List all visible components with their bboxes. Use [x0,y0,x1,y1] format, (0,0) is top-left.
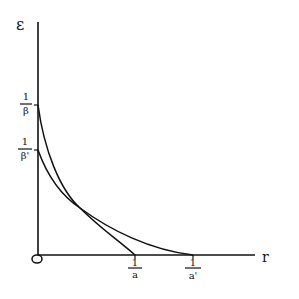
svg-text:1: 1 [190,257,196,268]
svg-text:β: β [23,105,29,116]
x-axis-label: r [262,249,269,265]
x-label-1-over-a-prime: 1 a' [185,257,201,281]
svg-text:a': a' [189,270,198,281]
svg-text:1: 1 [132,257,138,268]
svg-text:β': β' [21,150,30,161]
origin-marker [32,255,42,263]
diagram-svg: ε r 1 β 1 β' 1 a 1 a' [0,0,299,299]
svg-text:1: 1 [23,91,29,102]
x-label-1-over-a: 1 a [128,257,142,280]
diagram-canvas: ε r 1 β 1 β' 1 a 1 a' [0,0,299,299]
svg-text:a: a [132,269,138,280]
y-label-1-over-beta: 1 β [20,91,32,116]
y-axis-label: ε [16,15,24,34]
svg-text:1: 1 [22,136,28,147]
y-label-1-over-beta-prime: 1 β' [18,136,32,161]
